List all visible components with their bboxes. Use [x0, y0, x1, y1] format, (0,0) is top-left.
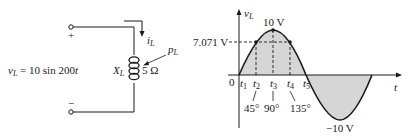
x-axis-label: t	[394, 81, 398, 93]
power-pointer-icon	[146, 55, 166, 64]
power-label: pL	[167, 43, 179, 57]
angle-45-label: 45°	[244, 102, 259, 114]
y-axis-arrow-icon	[237, 9, 242, 15]
peak-label: 10 V	[263, 16, 285, 28]
angle-135-label: 135°	[290, 102, 311, 114]
x-axis-arrow-icon	[396, 73, 402, 78]
t1-label: t1	[240, 77, 247, 91]
current-arrowhead-icon	[140, 31, 145, 37]
reactance-value: 5 Ω	[142, 64, 158, 76]
peak-point	[271, 28, 275, 32]
angle-leaders	[253, 91, 295, 101]
origin-label: 0	[229, 76, 235, 88]
angle-90-label: 90°	[264, 102, 279, 114]
t4-label: t4	[287, 77, 294, 91]
circuit: + − vL = 10 sin 200t iL pL XL 5 Ω	[8, 21, 179, 114]
minus-sign: −	[68, 97, 74, 109]
top-wire	[73, 27, 134, 55]
rms-label: 7.071 V	[193, 36, 228, 48]
inductor-coil-icon	[129, 57, 139, 80]
source-equation: vL = 10 sin 200t	[8, 64, 79, 78]
t2-label: t2	[253, 77, 260, 91]
waveform-chart: vL 10 V 7.071 V 0 t −10 V t1 t2 t3 t4 t5…	[193, 7, 402, 134]
trough-label: −10 V	[326, 122, 354, 134]
bottom-terminal	[69, 110, 73, 114]
t4-point	[288, 40, 292, 44]
inductor-circuit-and-waveform: + − vL = 10 sin 200t iL pL XL 5 Ω vL	[0, 0, 411, 140]
bottom-wire	[73, 83, 134, 112]
plus-sign: +	[68, 29, 74, 41]
t2-point	[254, 40, 258, 44]
t3-label: t3	[270, 77, 277, 91]
reactance-label: XL	[112, 64, 125, 78]
y-axis-label: vL	[244, 7, 254, 21]
current-label: iL	[147, 34, 155, 48]
